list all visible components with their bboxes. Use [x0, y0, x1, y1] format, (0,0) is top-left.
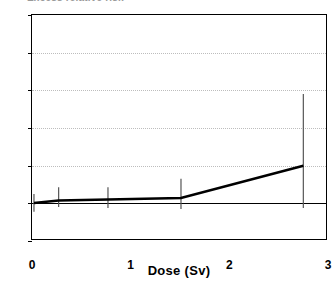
y-tick-mark--2 — [28, 241, 32, 242]
data-line-excess-relative-risk — [34, 166, 303, 203]
x-axis-title: Dose (Sv) — [31, 263, 327, 278]
data-layer — [32, 15, 328, 241]
plot-inner: -202468100123 — [32, 15, 326, 239]
chart-figure: Excess relative risk -202468100123 Dose … — [0, 0, 333, 287]
chart-title: Excess relative risk — [27, 0, 187, 2]
plot-area: -202468100123 — [31, 14, 327, 240]
